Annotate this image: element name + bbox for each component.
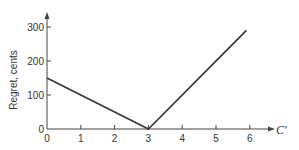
y-axis: 0100200300 <box>27 12 51 135</box>
y-axis-title: Regret, cents <box>8 50 19 109</box>
regret-chart: 0100200300 0123456 Regret, cents C' <box>0 0 299 150</box>
x-axis-arrow-icon <box>268 127 275 132</box>
y-tick-label: 300 <box>27 22 44 33</box>
x-tick-label: 5 <box>213 133 219 144</box>
x-tick-label: 2 <box>112 133 118 144</box>
x-axis: 0123456 <box>44 125 275 144</box>
x-tick-label: 6 <box>247 133 253 144</box>
y-axis-arrow-icon <box>45 12 50 19</box>
x-tick-label: 1 <box>78 133 84 144</box>
y-tick-label: 100 <box>27 90 44 101</box>
y-tick-label: 200 <box>27 56 44 67</box>
x-tick-label: 4 <box>179 133 185 144</box>
x-tick-label: 3 <box>146 133 152 144</box>
x-axis-title: C' <box>276 123 287 137</box>
x-tick-label: 0 <box>44 133 50 144</box>
regret-line <box>47 30 246 129</box>
regret-line-series <box>47 30 246 129</box>
